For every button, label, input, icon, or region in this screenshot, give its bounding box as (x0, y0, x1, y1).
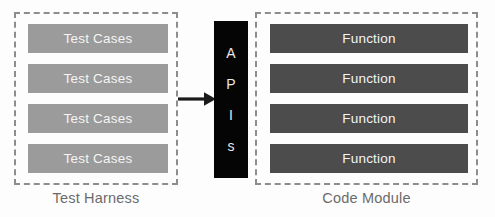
test-case-bar[interactable]: Test Cases (28, 104, 168, 133)
function-stack: Function Function Function Function (270, 24, 468, 173)
apis-letter: A (226, 46, 235, 60)
function-bar[interactable]: Function (270, 64, 468, 93)
test-case-bar[interactable]: Test Cases (28, 24, 168, 53)
test-case-stack: Test Cases Test Cases Test Cases Test Ca… (28, 24, 168, 173)
function-bar[interactable]: Function (270, 24, 468, 53)
function-bar[interactable]: Function (270, 104, 468, 133)
code-module-caption: Code Module (255, 190, 478, 206)
diagram-canvas: Test Cases Test Cases Test Cases Test Ca… (0, 0, 495, 217)
apis-letter: s (228, 139, 235, 153)
apis-connector-box[interactable]: A P I s (214, 21, 248, 178)
function-bar[interactable]: Function (270, 144, 468, 173)
apis-letter: I (229, 108, 233, 122)
apis-letter: P (226, 77, 235, 91)
test-harness-caption: Test Harness (14, 190, 178, 206)
test-case-bar[interactable]: Test Cases (28, 64, 168, 93)
flow-arrow-icon (176, 88, 216, 110)
test-case-bar[interactable]: Test Cases (28, 144, 168, 173)
